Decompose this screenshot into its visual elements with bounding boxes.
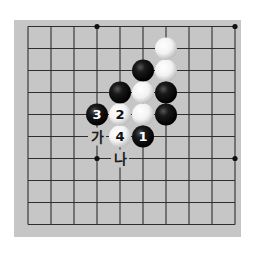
black-stone — [155, 82, 177, 104]
black-stone: 3 — [86, 104, 108, 126]
white-stone — [132, 82, 154, 104]
move-number-label: 1 — [138, 129, 147, 144]
position-mark-label: 가 — [91, 129, 104, 145]
black-stone-icon — [132, 60, 154, 82]
star-point-icon — [94, 24, 99, 29]
white-stone-icon — [132, 82, 154, 104]
white-stone-icon — [155, 38, 177, 60]
black-stone-icon — [155, 104, 177, 126]
black-stone-icon — [109, 82, 131, 104]
star-point-icon — [232, 24, 237, 29]
white-stone — [155, 60, 177, 82]
black-stone — [155, 104, 177, 126]
white-stone: 2 — [109, 104, 131, 126]
go-board: 가나 3241 — [14, 20, 241, 237]
black-stone — [109, 82, 131, 104]
move-number-label: 4 — [115, 129, 124, 144]
move-number-label: 3 — [92, 107, 101, 122]
white-stone-icon — [132, 104, 154, 126]
star-point-icon — [232, 156, 237, 161]
white-stone — [132, 104, 154, 126]
grid-lines — [28, 27, 235, 225]
white-stone-icon — [155, 60, 177, 82]
white-stone — [155, 38, 177, 60]
black-stone — [132, 60, 154, 82]
board-grid: 가나 3241 — [14, 20, 241, 237]
black-stone: 1 — [132, 126, 154, 148]
position-mark-label: 나 — [114, 151, 127, 167]
black-stone-icon — [155, 82, 177, 104]
white-stone: 4 — [109, 126, 131, 148]
move-number-label: 2 — [115, 107, 124, 122]
star-point-icon — [94, 156, 99, 161]
